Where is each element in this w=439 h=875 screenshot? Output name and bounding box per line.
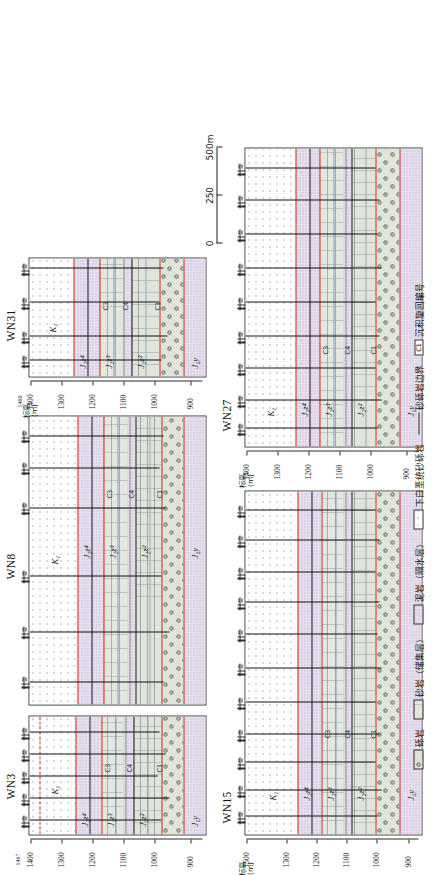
boundary-red-top xyxy=(77,416,78,704)
axis-top-value: 1467 xyxy=(14,853,20,865)
section-body-wn31: K₁ J₂z⁴ J₂z³ J₂z² J₁y C3 C4 C1 xyxy=(28,257,206,377)
axis-tick-label: 1200 xyxy=(311,852,320,867)
well-trace xyxy=(29,775,157,776)
section-body-wn8: K₁ J₂z⁴ J₂z³ J₂z² J₁y C3 C4 C1 xyxy=(28,415,206,705)
unit-j2z3 xyxy=(319,148,343,446)
wellhead-symbol xyxy=(236,811,245,824)
wellhead-symbol xyxy=(236,697,245,710)
axis-tick-label: 1500 xyxy=(241,852,250,867)
wellhead-symbol xyxy=(20,626,29,639)
axis-tick-label: 1300 xyxy=(272,464,281,479)
boundary-red-2 xyxy=(321,491,322,834)
axis-tick-label: 1300 xyxy=(281,852,290,867)
strat-label-j2z4: J₂z⁴ xyxy=(81,545,91,558)
boundary-blue-1 xyxy=(117,416,118,704)
well-trace xyxy=(29,335,167,336)
well-trace xyxy=(245,335,379,336)
axis-tick-label: 900 xyxy=(401,468,410,479)
well-trace xyxy=(29,267,163,268)
wellhead-symbol xyxy=(20,263,29,276)
axis-tick-label: 1400 xyxy=(241,464,250,479)
well-name-wn15: WN15 xyxy=(220,791,232,823)
axis-tick-label: 1200 xyxy=(87,394,96,409)
axis-tick-label: 900 xyxy=(185,398,194,409)
well-trace xyxy=(245,633,377,634)
wellhead-symbol xyxy=(236,263,245,276)
cretaceous-sandgravel-swatch-icon xyxy=(413,509,423,529)
wellhead-symbol xyxy=(20,815,29,828)
well-trace xyxy=(245,167,375,168)
wellhead-symbol xyxy=(236,567,245,580)
axis-tick-label: 1300 xyxy=(56,394,65,409)
boundary-red-4 xyxy=(183,258,184,376)
well-trace xyxy=(245,701,375,702)
legend-label: 砂岩（储集层） xyxy=(412,633,424,696)
wellhead-symbol xyxy=(236,663,245,676)
axis-tick-label: 1200 xyxy=(87,852,96,867)
legend: 砾岩 砂岩（储集层） 泥岩（隔水层） 下白垩统砂砾岩 砂砾岩边界 C1 沉积旋回… xyxy=(412,282,424,769)
boundary-red-top xyxy=(295,148,296,446)
strat-label-j2z3: J₂z³ xyxy=(325,787,335,800)
legend-item-cretaceous-sandgravel: 下白垩统砂砾岩 xyxy=(412,443,424,529)
axis-tick-label: 1100 xyxy=(118,852,127,867)
wellhead-symbol xyxy=(236,331,245,344)
well-trace xyxy=(245,571,375,572)
boundary-red-top xyxy=(297,491,298,834)
wellhead-symbol xyxy=(236,229,245,242)
well-trace xyxy=(245,199,379,200)
well-name-wn8: WN8 xyxy=(4,553,16,579)
axis-tick-label: 1400 xyxy=(25,394,34,409)
well-trace xyxy=(245,815,377,816)
strat-label-j2z3: J₂z³ xyxy=(323,403,333,416)
boundary-red-3 xyxy=(375,148,376,446)
axis-tick-label: 900 xyxy=(185,856,194,867)
unit-j2z3-mud xyxy=(343,148,351,446)
cycle-label-c3: C3 xyxy=(323,729,331,738)
unit-j2z3-mud xyxy=(127,416,135,704)
wellhead-symbol xyxy=(236,195,245,208)
well-trace xyxy=(245,601,379,602)
scale-bar-label-250: 250 xyxy=(204,186,214,203)
wellhead-symbol xyxy=(20,462,29,475)
boundary-black-1 xyxy=(91,416,92,704)
section-body-wn3: K₁ J₂z⁴ J₂z³ J₂z² J₁y C3 C4 C1 xyxy=(28,715,206,835)
legend-label: 下白垩统砂砾岩 xyxy=(412,443,424,506)
strat-label-j2z4: J₂z⁴ xyxy=(301,787,311,800)
unit-j2z1 xyxy=(161,716,183,834)
boundary-blue-1 xyxy=(335,491,336,834)
well-trace xyxy=(245,399,381,400)
cycle-label-c3: C3 xyxy=(321,345,329,354)
axis-top-value: 1460 xyxy=(16,395,22,407)
legend-label: 砾岩 xyxy=(412,728,424,746)
unit-j2z1 xyxy=(375,148,399,446)
strat-label-j2z3: J₂z³ xyxy=(103,355,113,368)
cycle-label-c3: C3 xyxy=(105,489,113,498)
well-trace xyxy=(245,761,375,762)
boundary-red-2 xyxy=(103,416,104,704)
strat-label-j2z2: J₂z² xyxy=(137,813,147,826)
cycle-label-c4: C4 xyxy=(127,489,135,498)
unit-j2z4 xyxy=(297,491,321,834)
legend-item-boundary: 砂砾岩边界 xyxy=(412,364,424,434)
well-trace xyxy=(29,575,161,576)
well-trace xyxy=(245,367,375,368)
unit-k1 xyxy=(29,258,73,376)
wellhead-symbol xyxy=(20,727,29,740)
well-trace xyxy=(245,733,379,734)
cycle-label-c3: C3 xyxy=(103,763,111,772)
boundary-red-top xyxy=(73,258,74,376)
strat-label-k1: K₁ xyxy=(49,785,59,794)
unit-j1y xyxy=(183,416,206,704)
boundary-black-2 xyxy=(135,416,136,704)
legend-label: 沉积旋回编号 xyxy=(412,282,424,336)
strat-label-j1y: J₁y xyxy=(189,357,199,368)
strat-label-j2z3: J₂z³ xyxy=(105,813,115,826)
well-trace xyxy=(29,681,163,682)
unit-j2z3-mud xyxy=(343,491,351,834)
well-name-wn3: WN3 xyxy=(4,773,16,799)
boundary-red-2 xyxy=(99,258,100,376)
axis-tick-label: 1200 xyxy=(303,464,312,479)
cycle-label-c4: C4 xyxy=(343,729,351,738)
boundary-red-4 xyxy=(399,491,400,834)
wellhead-symbol xyxy=(236,535,245,548)
